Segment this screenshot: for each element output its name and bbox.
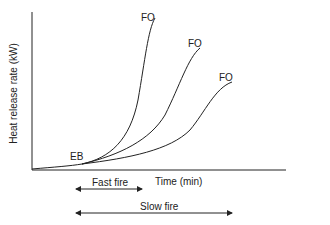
- fast-fire-label: Fast fire: [92, 178, 128, 188]
- eb-label: EB: [70, 152, 83, 162]
- fo-label-medium: FO: [188, 39, 202, 49]
- x-axis-label: Time (min): [155, 177, 202, 187]
- curve-medium: [82, 48, 200, 164]
- curve-fast: [32, 18, 155, 169]
- fo-label-slow: FO: [219, 73, 233, 83]
- chart-canvas: [0, 0, 330, 225]
- y-axis-label: Heat release rate (kW): [8, 39, 19, 149]
- fo-label-fast: FO: [141, 13, 155, 23]
- slow-fire-label: Slow fire: [140, 202, 178, 212]
- curve-slow: [82, 82, 232, 164]
